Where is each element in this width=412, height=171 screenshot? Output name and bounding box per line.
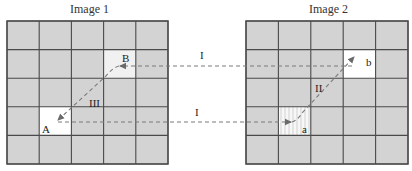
label-path-I-top: I [200, 49, 204, 61]
label-path-II: II [315, 82, 323, 94]
label-a: a [302, 123, 307, 135]
label-B: B [122, 52, 129, 64]
cell-B [104, 50, 136, 79]
label-path-I-bottom: I [195, 106, 199, 118]
label-b: b [366, 56, 372, 68]
diagram-canvas: B A b a I I III II [0, 0, 412, 171]
label-A: A [42, 123, 50, 135]
image-2-grid [246, 21, 408, 164]
image-1-grid [7, 21, 168, 164]
label-path-III: III [89, 97, 100, 109]
